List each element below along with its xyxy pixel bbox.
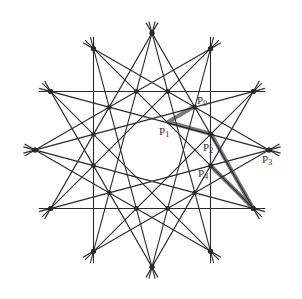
vertex-dot (208, 46, 213, 51)
vertex-dot (134, 206, 139, 211)
vertex-dot (107, 105, 112, 110)
vertex-dot (165, 206, 170, 211)
vertex-dot (91, 249, 96, 254)
label-p4: P4 (198, 168, 208, 181)
chord-line (83, 43, 279, 156)
chord-line (146, 23, 259, 219)
label-p2: P2 (203, 142, 213, 155)
chord-line (45, 23, 158, 219)
chord-line (25, 43, 221, 156)
vertex-dot (150, 31, 155, 36)
vertex-dot (251, 89, 256, 94)
vertex-dot (134, 89, 139, 94)
vertex-dot (107, 190, 112, 195)
label-p1: P1 (159, 126, 169, 139)
star-line-diagram (0, 0, 302, 299)
vertex-dot (48, 206, 53, 211)
chord-line (85, 40, 262, 217)
vertex-dot (267, 148, 272, 153)
intersection-dots (32, 30, 271, 269)
chord-line (45, 81, 158, 277)
vertex-dot (208, 249, 213, 254)
vertex-dot (165, 89, 170, 94)
vertex-dot (251, 206, 256, 211)
vertex-dot (91, 46, 96, 51)
vertex-dot (208, 163, 213, 168)
vertex-dot (150, 265, 155, 270)
label-p3: P3 (262, 154, 272, 167)
vertex-dot (33, 148, 38, 153)
vertex-dot (91, 163, 96, 168)
vertex-dot (48, 89, 53, 94)
vertex-dot (208, 132, 213, 137)
vertex-dot (91, 132, 96, 137)
chord-line (85, 83, 262, 260)
label-p0: P0 (197, 95, 207, 108)
vertex-dot (192, 190, 197, 195)
chord-line (25, 144, 221, 257)
